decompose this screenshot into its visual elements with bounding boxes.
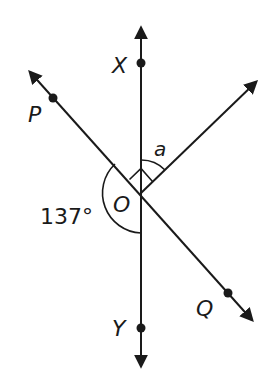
label-a: a	[154, 137, 166, 161]
point-p	[49, 94, 58, 103]
label-y: Y	[112, 316, 127, 341]
label-p: P	[28, 102, 42, 127]
point-q	[224, 289, 233, 298]
point-x	[137, 59, 146, 68]
label-o: O	[113, 192, 130, 217]
label-angle-137: 137°	[40, 204, 93, 229]
label-x: X	[111, 53, 128, 78]
label-q: Q	[196, 296, 213, 321]
angle-a-arc	[141, 160, 165, 170]
angle-diagram: X P a O 137° Y Q	[0, 0, 275, 387]
point-y	[137, 324, 146, 333]
